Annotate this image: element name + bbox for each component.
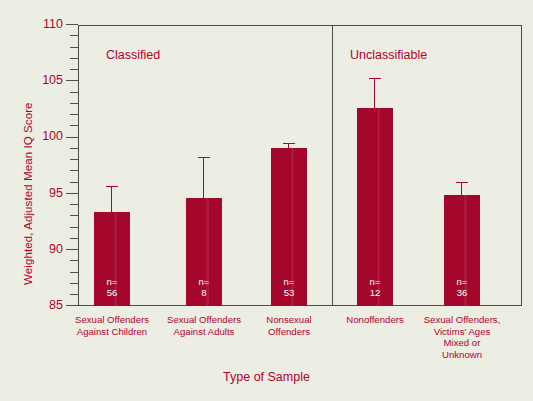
y-tick-label: 105 — [23, 74, 63, 87]
x-category-label: Nonsexual Offenders — [239, 314, 339, 337]
y-tick-minor — [70, 125, 78, 126]
y-tick-minor — [70, 238, 78, 239]
y-tick-major — [66, 305, 78, 306]
y-tick-minor — [70, 103, 78, 104]
y-tick-label: 100 — [23, 130, 63, 143]
y-tick-label: 95 — [23, 187, 63, 200]
y-tick-minor — [70, 159, 78, 160]
y-tick-minor — [70, 35, 78, 36]
error-bar-cap — [456, 182, 468, 183]
y-tick-minor — [70, 182, 78, 183]
y-tick-minor — [70, 283, 78, 284]
y-tick-minor — [70, 58, 78, 59]
error-bar-stem — [374, 78, 375, 108]
panel-title-classified: Classified — [106, 48, 160, 62]
y-tick-label: 85 — [23, 299, 63, 312]
bar-n-label: n= 8 — [186, 276, 222, 298]
y-tick-major — [66, 80, 78, 81]
y-tick-label: 110 — [23, 18, 63, 31]
bar-n-label: n= 53 — [271, 276, 307, 298]
error-bar-cap — [369, 78, 381, 79]
y-tick-minor — [70, 47, 78, 48]
y-tick-minor — [70, 148, 78, 149]
y-tick-major — [66, 193, 78, 194]
y-tick-major — [66, 24, 78, 25]
y-tick-minor — [70, 227, 78, 228]
error-bar-cap — [283, 143, 295, 144]
x-category-label: Nonoffenders — [325, 314, 425, 326]
x-axis-title: Type of Sample — [0, 370, 533, 384]
error-bar-stem — [461, 182, 462, 194]
y-tick-major — [66, 137, 78, 138]
error-bar-stem — [203, 157, 204, 199]
y-tick-label: 90 — [23, 243, 63, 256]
y-tick-minor — [70, 69, 78, 70]
y-tick-minor — [70, 294, 78, 295]
y-tick-minor — [70, 92, 78, 93]
y-tick-minor — [70, 260, 78, 261]
y-tick-minor — [70, 272, 78, 273]
panel-divider — [332, 25, 333, 306]
bar-n-label: n= 12 — [357, 276, 393, 298]
x-category-label: Sexual Offenders, Victims' Ages Mixed or… — [412, 314, 512, 360]
bar-n-label: n= 56 — [94, 276, 130, 298]
chart-figure: Weighted, Adjusted Mean IQ Score 8590951… — [0, 0, 533, 401]
bar-n-label: n= 36 — [444, 276, 480, 298]
x-category-label: Sexual Offenders Against Children — [62, 314, 162, 337]
y-tick-minor — [70, 204, 78, 205]
panel-title-unclassifiable: Unclassifiable — [350, 48, 427, 62]
y-tick-minor — [70, 170, 78, 171]
error-bar-cap — [198, 157, 210, 158]
y-tick-major — [66, 249, 78, 250]
error-bar-cap — [106, 186, 118, 187]
y-tick-minor — [70, 114, 78, 115]
error-bar-stem — [111, 186, 112, 212]
y-tick-minor — [70, 215, 78, 216]
